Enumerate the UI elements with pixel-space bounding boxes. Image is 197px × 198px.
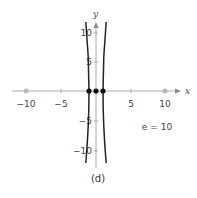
y-tick-label: −10: [73, 146, 92, 156]
x-tick-label: 5: [128, 99, 134, 109]
vertex-point: [100, 88, 105, 93]
y-axis-arrow-icon: [94, 22, 99, 28]
eccentricity-label: e = 10: [142, 122, 173, 132]
hyperbola-chart: −10 −5 5 10 10 5 −5 −10 x y e = 10 (d): [0, 0, 197, 198]
x-tick-label: −10: [17, 99, 36, 109]
x-tick-label: 10: [159, 99, 171, 109]
x-tick-label: −5: [54, 99, 67, 109]
x-axis-label: x: [185, 86, 190, 96]
center-point: [93, 88, 98, 93]
focus-point: [163, 89, 168, 94]
vertex-point: [86, 88, 91, 93]
x-axis-arrow-icon: [175, 89, 181, 94]
focus-point: [24, 89, 29, 94]
figure-caption: (d): [91, 173, 105, 184]
y-axis-label: y: [92, 9, 99, 19]
y-tick-label: −5: [79, 116, 92, 126]
